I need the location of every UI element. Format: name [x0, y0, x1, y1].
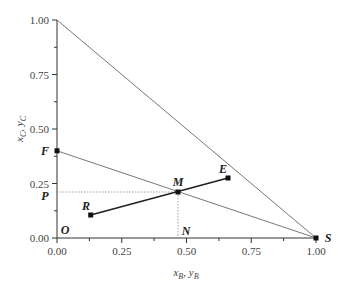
x-axis-title: xB, yB	[172, 266, 198, 281]
hypotenuse-line	[57, 20, 316, 238]
x-tick-label: 0.25	[112, 245, 132, 257]
point-s-marker	[314, 236, 319, 241]
point-r-marker	[88, 213, 93, 218]
point-o-label: O	[61, 223, 70, 237]
x-tick-label: 1.00	[306, 245, 326, 257]
point-f-marker	[55, 148, 60, 153]
x-tick-label: 0.50	[177, 245, 197, 257]
y-tick-label: 0.75	[30, 69, 50, 81]
point-e-marker	[226, 176, 231, 181]
point-n-label: N	[181, 224, 192, 238]
ternary-lever-chart: 0.00 0.25 0.50 0.75 1.00 0.00 0.25 0.50 …	[0, 0, 345, 288]
point-m-label: M	[172, 175, 184, 189]
point-f-label: F	[40, 144, 49, 158]
x-ticks	[57, 238, 316, 243]
point-s-label: S	[325, 231, 332, 245]
r-e-tie-line	[91, 178, 228, 215]
point-p-label: P	[41, 189, 49, 203]
point-m-marker	[176, 190, 181, 195]
y-ticks	[52, 20, 57, 238]
y-axis-title: xC, yC	[13, 115, 28, 143]
y-tick-label: 0.25	[30, 178, 50, 190]
point-r-label: R	[81, 199, 90, 213]
x-tick-label: 0.75	[242, 245, 262, 257]
y-tick-label: 0.00	[30, 232, 50, 244]
point-e-label: E	[218, 162, 227, 176]
y-tick-labels: 0.00 0.25 0.50 0.75 1.00	[30, 14, 50, 244]
y-tick-label: 1.00	[30, 14, 50, 26]
x-tick-label: 0.00	[47, 245, 67, 257]
x-tick-labels: 0.00 0.25 0.50 0.75 1.00	[47, 245, 326, 257]
y-tick-label: 0.50	[30, 123, 50, 135]
